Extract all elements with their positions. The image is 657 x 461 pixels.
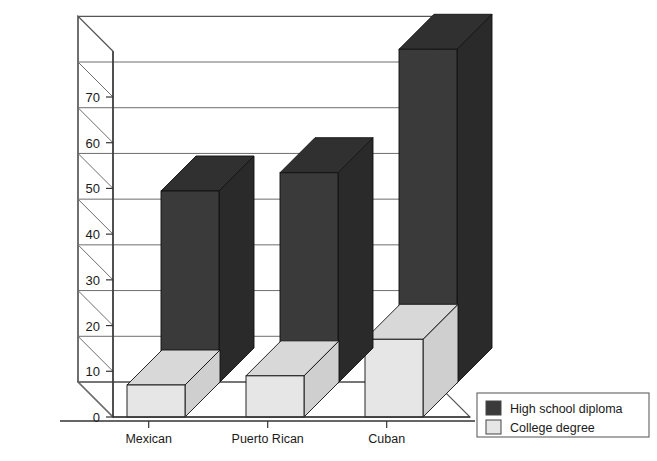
x-tick-label: Puerto Rican	[232, 432, 304, 446]
x-tick-label: Cuban	[368, 432, 405, 446]
y-tick-label: 70	[86, 90, 100, 105]
chart-legend: High school diplomaCollege degree	[477, 393, 649, 437]
legend-label: College degree	[510, 421, 595, 435]
x-tick-label: Mexican	[125, 432, 172, 446]
legend-swatch-high-school-diploma	[486, 401, 501, 415]
chart-container: 010203040506070MexicanPuerto RicanCuban …	[0, 0, 657, 461]
legend-swatch-college-degree	[486, 420, 501, 434]
y-tick-label: 0	[93, 410, 100, 425]
y-tick-label: 30	[86, 273, 100, 288]
y-tick-label: 10	[86, 364, 100, 379]
y-tick-label: 40	[86, 227, 100, 242]
y-tick-label: 60	[86, 136, 100, 151]
bar-high-school-mexican	[161, 156, 254, 383]
bar-chart-3d: 010203040506070MexicanPuerto RicanCuban …	[0, 0, 657, 461]
legend-label: High school diploma	[510, 402, 623, 416]
y-tick-label: 50	[86, 181, 100, 196]
y-tick-label: 20	[86, 319, 100, 334]
